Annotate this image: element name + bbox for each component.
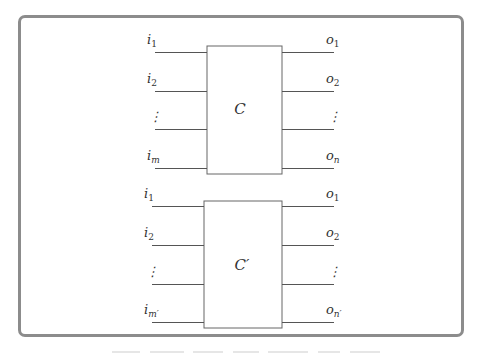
input-label: ⋮ [149,109,162,124]
input-label: i2 [147,71,157,88]
circuit-diagram: Ci1i2⋮imo1o2⋮onC′i1i2⋮im′o1o2⋮on′ [0,0,479,354]
input-label: ⋮ [146,264,159,279]
output-label: ⋮ [328,264,341,279]
output-label: o1 [326,186,340,203]
output-label: ⋮ [328,109,341,124]
input-label: i1 [144,186,154,203]
input-label: im′ [144,302,159,319]
input-label: im [147,148,160,165]
circuit-label: C′ [235,256,250,274]
output-label: on′ [326,302,342,319]
circuit-C: Ci1i2⋮imo1o2⋮on [147,32,341,174]
circuit-label: C [234,100,246,118]
input-label: i2 [144,225,154,242]
input-label: i1 [147,32,157,49]
output-label: o2 [326,225,340,242]
circuit-C-prime: C′i1i2⋮im′o1o2⋮on′ [144,186,342,328]
output-label: o1 [326,32,340,49]
output-label: on [326,148,340,165]
output-label: o2 [326,71,340,88]
